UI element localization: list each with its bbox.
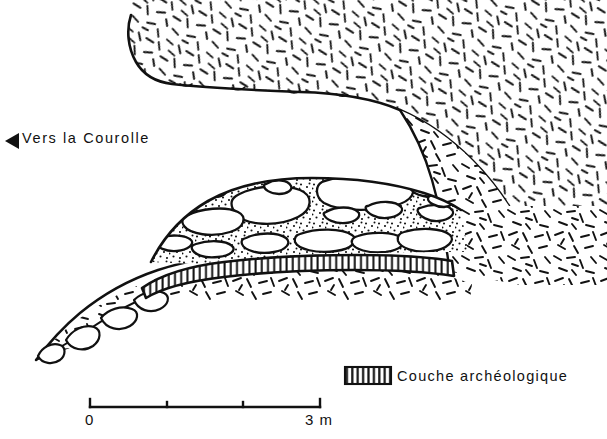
legend-swatch-couche-archeologique (345, 367, 391, 384)
left-triangle-icon (5, 133, 19, 149)
scale-bar-end-label: 3 m (305, 412, 333, 427)
scale-bar (90, 399, 320, 407)
legend-item-label: Couche archéologique (397, 369, 568, 384)
direction-label: Vers la Courolle (22, 131, 150, 146)
cross-section-figure: Vers la Courolle Couche archéologique 0 … (0, 0, 607, 439)
scale-bar-start-label: 0 (85, 412, 93, 427)
legend (345, 367, 391, 384)
